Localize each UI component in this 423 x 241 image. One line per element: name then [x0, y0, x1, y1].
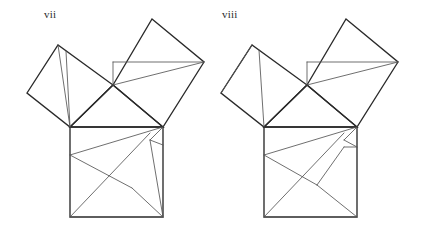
- geometry-svg: [0, 0, 423, 241]
- vii-upper-left-square: [27, 45, 113, 127]
- viii-bottom-square: [264, 127, 357, 217]
- bs-notch-edge: [150, 140, 163, 145]
- viii-inner-lines: [221, 45, 398, 217]
- bs-upper-left-diag: [264, 127, 357, 155]
- bs-fan-a: [317, 147, 344, 185]
- vii-inner-lines: [58, 45, 204, 217]
- bs-corner-notch-b: [150, 140, 163, 217]
- bs-corner-notch-b: [344, 140, 357, 147]
- bs-upper-left-diag: [70, 127, 163, 155]
- bs-right-diag: [132, 188, 163, 217]
- bs-mid-diag: [70, 155, 132, 188]
- vii-upper-right-square: [113, 19, 204, 127]
- viii-upper-left-square: [221, 45, 307, 127]
- ur-diagonal: [113, 62, 204, 85]
- ul-diagonal: [221, 45, 252, 93]
- ur-diagonal: [307, 62, 398, 85]
- bs-long-diag: [264, 133, 344, 217]
- bs-right-diag: [317, 185, 357, 217]
- viii-right-triangle: [264, 85, 357, 127]
- figure-viii: [221, 19, 398, 217]
- ul-vertical: [259, 50, 264, 127]
- figure-vii: [27, 19, 204, 217]
- bs-long-diag: [70, 133, 150, 217]
- viii-upper-right-square: [307, 19, 398, 127]
- diagram-canvas: vii viii: [0, 0, 423, 241]
- vii-right-triangle: [70, 85, 163, 127]
